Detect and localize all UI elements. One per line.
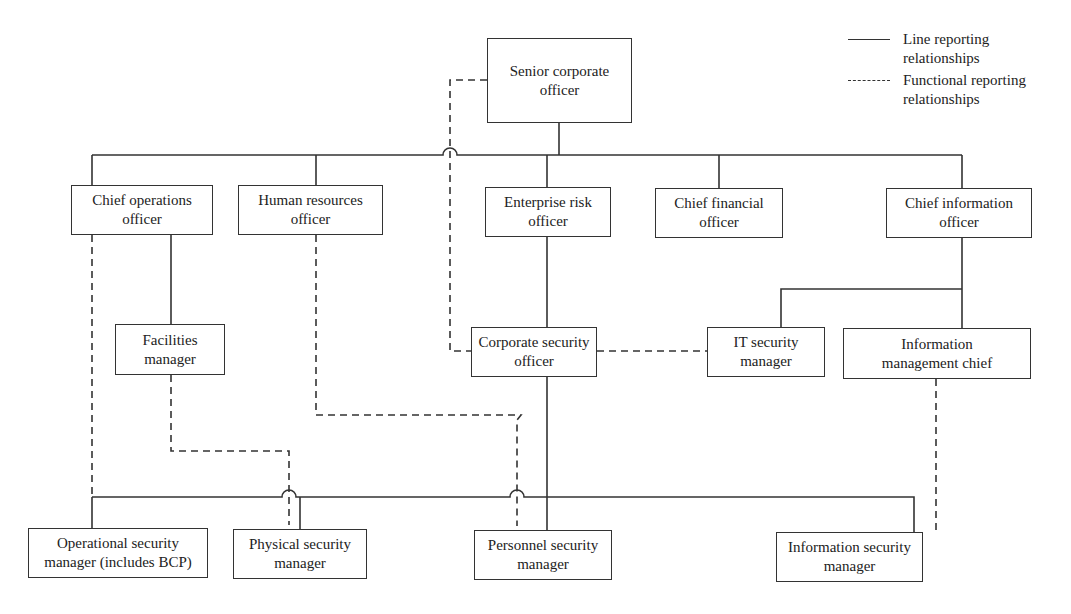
dash-hr-persec: [316, 235, 521, 526]
node-label-line2: officer: [540, 81, 580, 100]
node-personnel-security-manager: Personnel security manager: [474, 530, 612, 580]
top-bus: [92, 148, 962, 155]
dashed-line-swatch: [848, 80, 890, 81]
node-operational-security-manager: Operational security manager (includes B…: [28, 528, 208, 578]
node-facilities-manager: Facilities manager: [115, 324, 225, 375]
node-label-line1: Chief operations: [92, 191, 192, 210]
node-it-security-manager: IT security manager: [707, 327, 825, 377]
node-label-line1: Information: [901, 335, 973, 354]
node-information-management-chief: Information management chief: [843, 328, 1031, 379]
node-label-line2: officer: [291, 210, 331, 229]
node-label-line2: manager: [144, 350, 196, 369]
legend-functional-label-1: Functional reporting: [903, 71, 1026, 90]
node-label-line1: Human resources: [258, 191, 363, 210]
node-label-line1: Operational security: [57, 534, 179, 553]
node-label-line1: Chief financial: [674, 194, 764, 213]
node-physical-security-manager: Physical security manager: [233, 529, 367, 579]
node-label-line2: manager: [517, 555, 569, 574]
node-label-line1: Information security: [788, 538, 911, 557]
node-label-line2: manager: [824, 557, 876, 576]
node-label-line1: Physical security: [249, 535, 351, 554]
node-label-line1: Personnel security: [488, 536, 598, 555]
node-label-line2: manager: [274, 554, 326, 573]
node-label-line2: manager (includes BCP): [44, 553, 191, 572]
solid-line-swatch: [848, 39, 890, 40]
node-information-security-manager: Information security manager: [776, 532, 923, 582]
node-corporate-security-officer: Corporate security officer: [471, 327, 597, 377]
node-label-line2: officer: [122, 210, 162, 229]
node-enterprise-risk-officer: Enterprise risk officer: [485, 187, 611, 237]
dash-facilities-physec: [171, 375, 289, 525]
legend: Line reporting relationships Functional …: [848, 30, 1068, 130]
node-label-line1: Facilities: [143, 331, 198, 350]
node-senior-corporate-officer: Senior corporate officer: [487, 38, 632, 123]
node-chief-information-officer: Chief information officer: [886, 188, 1032, 238]
line-cio-itsec: [781, 289, 962, 327]
node-label-line1: Corporate security: [478, 333, 589, 352]
node-chief-operations-officer: Chief operations officer: [71, 185, 213, 235]
legend-line-label-2: relationships: [903, 49, 989, 68]
node-label-line2: officer: [939, 213, 979, 232]
node-label-line2: manager: [740, 352, 792, 371]
node-label-line1: IT security: [733, 333, 798, 352]
node-label-line1: Enterprise risk: [504, 193, 592, 212]
node-chief-financial-officer: Chief financial officer: [655, 188, 783, 238]
node-label-line2: management chief: [882, 354, 992, 373]
legend-line-label-1: Line reporting: [903, 30, 989, 49]
bottom-bus: [92, 490, 914, 532]
dash-senior-cso: [450, 80, 487, 351]
node-label-line1: Chief information: [905, 194, 1013, 213]
node-label-line2: officer: [699, 213, 739, 232]
node-label-line1: Senior corporate: [510, 62, 610, 81]
node-label-line2: officer: [514, 352, 554, 371]
legend-functional-label-2: relationships: [903, 90, 1026, 109]
node-label-line2: officer: [528, 212, 568, 231]
node-human-resources-officer: Human resources officer: [238, 185, 383, 235]
